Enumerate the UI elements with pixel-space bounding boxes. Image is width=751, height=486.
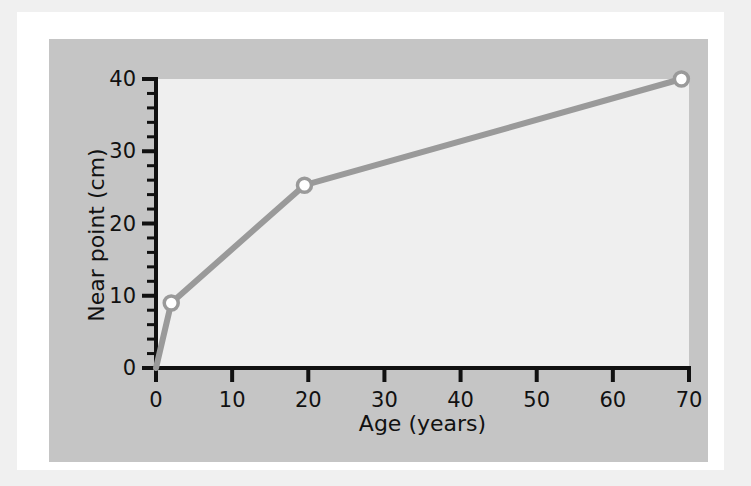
x-tick-label: 40 <box>447 390 474 411</box>
x-tick-label: 30 <box>371 390 398 411</box>
x-axis-title: Age (years) <box>156 413 689 435</box>
y-tick-label: 40 <box>109 69 136 90</box>
data-point-marker <box>674 72 688 86</box>
data-point-marker <box>164 296 178 310</box>
series-marker-group <box>164 72 688 310</box>
figure-root: 010203040 010203040506070 Age (years) Ne… <box>0 0 751 486</box>
x-tick-label: 50 <box>523 390 550 411</box>
y-tick-label: 30 <box>109 141 136 162</box>
y-tick-label: 20 <box>109 213 136 234</box>
y-tick-label: 0 <box>123 358 136 379</box>
x-tick-label: 10 <box>219 390 246 411</box>
x-tick-label: 20 <box>295 390 322 411</box>
data-point-marker <box>297 178 311 192</box>
figure-panel: 010203040 010203040506070 Age (years) Ne… <box>49 39 708 462</box>
x-tick-label: 60 <box>599 390 626 411</box>
x-tick-label: 0 <box>149 390 162 411</box>
series-line-group <box>156 79 681 368</box>
y-tick-label: 10 <box>109 285 136 306</box>
series-line <box>156 79 681 368</box>
axis-lines <box>154 77 691 368</box>
x-major-ticks-group <box>156 368 689 382</box>
figure-mat: 010203040 010203040506070 Age (years) Ne… <box>17 12 724 470</box>
y-axis-title: Near point (cm) <box>86 91 108 380</box>
x-tick-label: 70 <box>676 390 703 411</box>
